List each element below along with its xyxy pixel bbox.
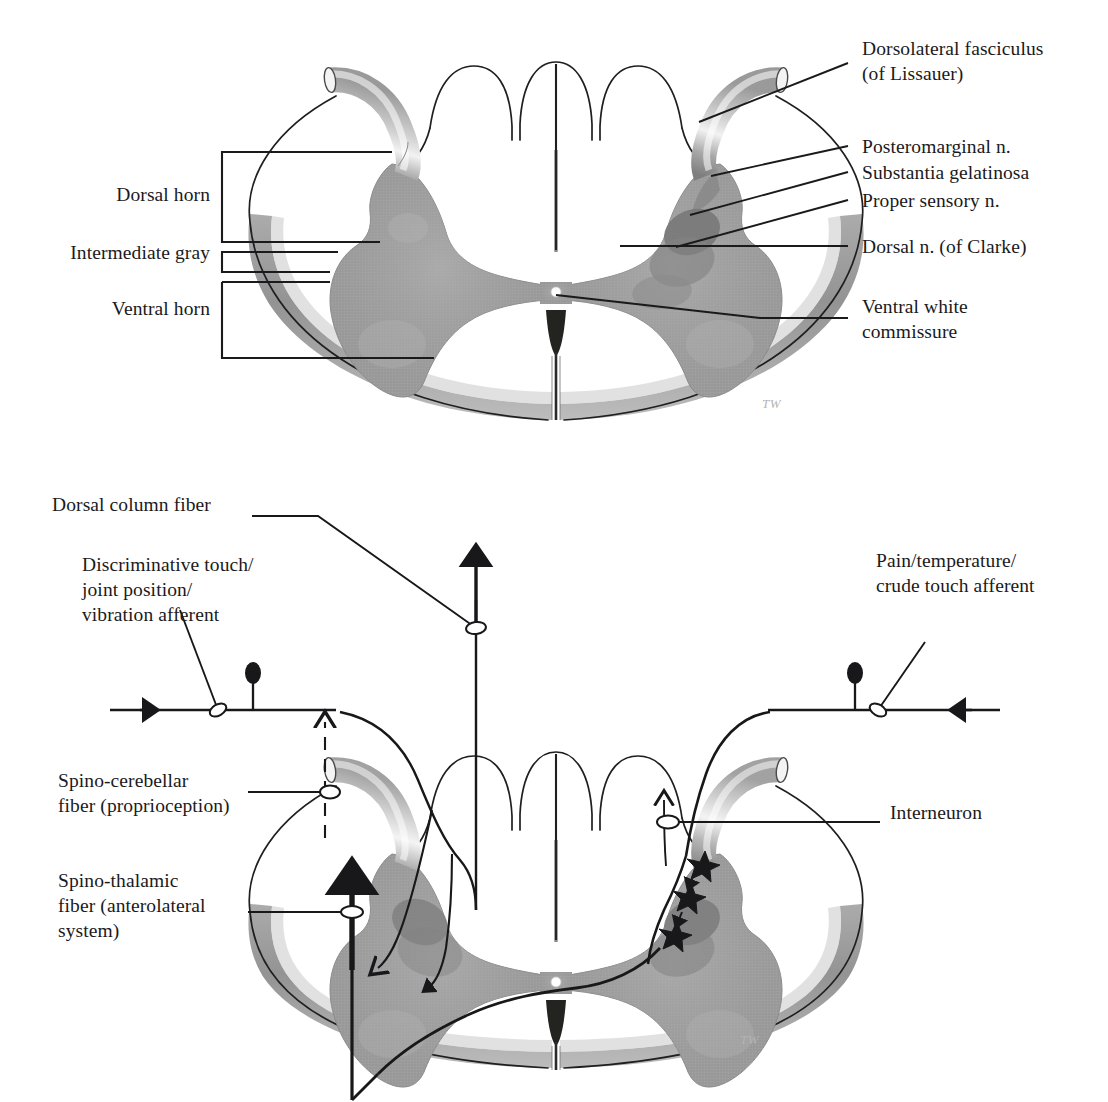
dorsal-root-right-bottom	[704, 757, 790, 866]
marker-spino-cerebellar	[320, 786, 340, 799]
label-dorsal-column-fiber: Dorsal column fiber	[52, 492, 372, 517]
label-dorsal-n-of-clarke: Dorsal n. (of Clarke)	[862, 234, 1106, 259]
label-posteromarginal-n: Posteromarginal n.	[862, 134, 1106, 159]
label-substantia-gelatinosa: Substantia gelatinosa	[862, 160, 1106, 185]
leader-pain-temperature	[878, 642, 925, 710]
dorsal-root-left-bottom	[323, 757, 409, 866]
lissauer-tract-arrow	[664, 800, 666, 866]
marker-interneuron	[657, 816, 679, 829]
marker-discriminative-touch	[207, 701, 228, 720]
label-spino-cerebellar-fiber: Spino-cerebellar fiber (proprioception)	[58, 768, 308, 818]
label-spino-thalamic-fiber: Spino-thalamic fiber (anterolateral syst…	[58, 868, 308, 943]
dorsal-root-ganglion-left	[245, 662, 261, 684]
label-dorsolateral-fasciculus: Dorsolateral fasciculus (of Lissauer)	[862, 36, 1106, 86]
label-discriminative-touch-afferent: Discriminative touch/ joint position/ vi…	[82, 552, 382, 627]
label-dorsal-horn: Dorsal horn	[48, 182, 210, 207]
marker-spino-thalamic	[341, 906, 363, 918]
panel-afferent-pathways: Dorsal column fiber Discriminative touch…	[0, 470, 1108, 1102]
panel-spinal-cord-laminae: Dorsal horn Intermediate gray Ventral ho…	[0, 0, 1108, 470]
label-proper-sensory-n: Proper sensory n.	[862, 188, 1106, 213]
dorsal-root-ganglion-right	[847, 662, 863, 684]
artist-signature-bottom: TW	[740, 1032, 759, 1048]
leader-posteromarginal	[711, 146, 848, 176]
dorsal-root-right	[704, 67, 790, 176]
central-canal-bottom	[551, 977, 561, 987]
bracket-dorsal-horn	[222, 152, 392, 242]
marker-pain-temperature	[867, 701, 888, 720]
label-ventral-horn: Ventral horn	[48, 296, 210, 321]
artist-signature: TW	[762, 396, 781, 412]
label-pain-temperature-afferent: Pain/temperature/ crude touch afferent	[876, 548, 1108, 598]
label-intermediate-gray: Intermediate gray	[18, 240, 210, 265]
label-ventral-white-commissure: Ventral white commissure	[862, 294, 1106, 344]
label-interneuron: Interneuron	[890, 800, 1100, 825]
dorsal-root-left	[323, 67, 409, 176]
ventral-commissure-wedge	[546, 310, 566, 356]
figure-root: Dorsal horn Intermediate gray Ventral ho…	[0, 0, 1108, 1102]
